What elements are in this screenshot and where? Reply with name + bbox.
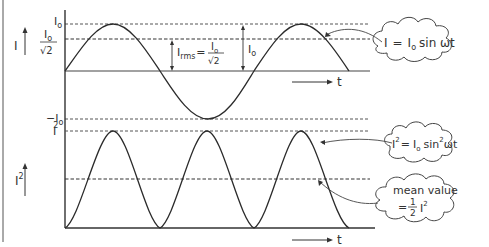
arrow-right-icon xyxy=(327,80,333,85)
svg-text:Io: Io xyxy=(44,28,52,43)
svg-text:=: = xyxy=(398,201,407,214)
peak-level-label: Io xyxy=(54,15,62,30)
arrow-up-icon xyxy=(23,27,28,33)
rms-annotation: Irms= Io √2 xyxy=(170,40,224,71)
peak-annotation: Io xyxy=(241,25,256,71)
arrow-right-icon xyxy=(327,238,333,243)
pointer-arrowhead-icon xyxy=(318,180,323,186)
current-squared-curve xyxy=(65,131,349,228)
svg-text:2: 2 xyxy=(410,208,416,218)
svg-text:Irms=: Irms= xyxy=(177,46,206,61)
equation-current-squared: I2=Iosin2ωt xyxy=(392,136,458,153)
squared-peak-label: I2 xyxy=(53,121,58,138)
top-time-label: t xyxy=(337,75,342,89)
svg-text:√2: √2 xyxy=(208,56,219,66)
pointer-arrowhead-icon xyxy=(320,140,325,145)
svg-text:1: 1 xyxy=(410,197,416,207)
cloud-pointer-bottom xyxy=(320,182,378,204)
mean-value-label: mean value xyxy=(393,184,458,197)
top-graph: I Io Io √2 Irms= Io √2 Io t xyxy=(14,15,455,119)
svg-text:Io: Io xyxy=(248,43,256,58)
ac-rms-diagram: I Io Io √2 Irms= Io √2 Io t xyxy=(0,0,489,247)
cloud-pointer-middle xyxy=(322,139,392,143)
arrow-up-icon xyxy=(23,163,28,169)
rms-level-label: Io √2 xyxy=(40,28,57,56)
bottom-time-label: t xyxy=(337,233,342,247)
equation-current: I=Iosin ωt xyxy=(384,36,455,52)
svg-text:√2: √2 xyxy=(40,45,53,56)
bottom-graph: −Io I2 I2 t I2=Iosin2ωt mean value = 1 2… xyxy=(15,112,458,247)
top-y-axis-label: I xyxy=(14,39,18,53)
bottom-y-axis-label: I2 xyxy=(15,172,24,188)
